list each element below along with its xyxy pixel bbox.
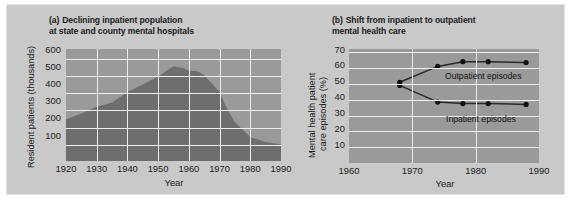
chart-b-title-line2: mental health care (332, 26, 406, 36)
chart-b-gridline-10 (349, 147, 539, 148)
chart-b-point-outpatient-1982 (486, 59, 491, 64)
chart-a-gridline-100 (66, 145, 281, 146)
chart-b-title-line1: Shift from inpatient to outpatient (346, 15, 476, 25)
chart-a-title-line1: Declining inpatient population (62, 15, 182, 25)
chart-a-plot-area (66, 49, 281, 161)
chart-a-gridline-1940 (127, 49, 128, 161)
chart-b-ytick-30: 30 (317, 108, 345, 118)
chart-b-gridline-1970 (412, 49, 413, 163)
chart-b-point-inpatient-1978 (460, 101, 465, 106)
chart-a-tag: (a) (49, 15, 59, 25)
chart-b-y-axis-label-line1: Mental health patient (307, 73, 317, 158)
chart-b-ytick-60: 60 (317, 60, 345, 70)
chart-b-point-inpatient-1982 (486, 101, 491, 106)
chart-b-gridline-1980 (476, 49, 477, 163)
chart-b-ytick-40: 40 (317, 92, 345, 102)
chart-b-xtick-1990: 1990 (522, 166, 556, 176)
chart-b-xtick-1960: 1960 (332, 166, 366, 176)
chart-a-ytick-100: 100 (33, 131, 61, 141)
chart-b-gridline-40 (349, 100, 539, 101)
chart-a-gridline-1960 (189, 49, 190, 161)
chart-b-x-axis-label: Year (410, 178, 480, 189)
chart-a-title: (a)Declining inpatient population at sta… (49, 15, 287, 37)
chart-b-annotation-outpatient: Outpatient episodes (445, 71, 521, 81)
chart-b-ytick-10: 10 (317, 140, 345, 150)
chart-b-gridline-70 (349, 52, 539, 53)
chart-a-xtick-1940: 1940 (110, 164, 144, 174)
chart-b-gridline-50 (349, 84, 539, 85)
figure-panel: (a)Declining inpatient population at sta… (6, 4, 565, 195)
chart-a-gridline-1980 (250, 49, 251, 161)
chart-b-shift-inpatient-to-outpatient: (b)Shift from inpatient to outpatient me… (299, 5, 566, 196)
chart-a-xtick-1970: 1970 (203, 164, 237, 174)
chart-b-gridline-60 (349, 68, 539, 69)
chart-b-point-inpatient-1988 (524, 102, 529, 107)
chart-b-gridline-20 (349, 131, 539, 132)
chart-a-ytick-500: 500 (33, 62, 61, 72)
chart-a-declining-inpatient-population: (a)Declining inpatient population at sta… (7, 5, 299, 196)
chart-a-area-polygon (66, 66, 281, 161)
chart-a-gridline-400 (66, 93, 281, 94)
chart-b-plot-area: Outpatient episodes Inpatient episodes (349, 49, 539, 163)
chart-a-gridline-1970 (220, 49, 221, 161)
chart-a-x-axis-label: Year (139, 177, 209, 188)
chart-b-title: (b)Shift from inpatient to outpatient me… (332, 15, 562, 37)
chart-b-xtick-1980: 1980 (459, 166, 493, 176)
chart-a-gridline-300 (66, 110, 281, 111)
chart-b-ytick-50: 50 (317, 76, 345, 86)
chart-b-tag: (b) (332, 15, 343, 25)
chart-a-ytick-400: 400 (33, 79, 61, 89)
chart-a-ytick-200: 200 (33, 113, 61, 123)
chart-a-title-line2: at state and county mental hospitals (49, 26, 194, 36)
chart-a-ytick-300: 300 (33, 96, 61, 106)
chart-b-ytick-20: 20 (317, 124, 345, 134)
chart-b-point-outpatient-1988 (524, 60, 529, 65)
chart-a-gridline-500 (66, 76, 281, 77)
figure-container: (a)Declining inpatient population at sta… (0, 0, 571, 205)
chart-b-line-series (349, 49, 539, 163)
chart-a-gridline-600 (66, 59, 281, 60)
chart-a-gridline-200 (66, 128, 281, 129)
chart-a-xtick-1920: 1920 (49, 164, 83, 174)
chart-b-annotation-inpatient: Inpatient episodes (446, 114, 516, 124)
chart-a-xtick-1990: 1990 (264, 164, 298, 174)
chart-b-point-outpatient-1978 (460, 59, 465, 64)
chart-a-xtick-1950: 1950 (141, 164, 175, 174)
chart-a-ytick-600: 600 (33, 45, 61, 55)
chart-a-xtick-1930: 1930 (80, 164, 114, 174)
chart-a-gridline-1950 (158, 49, 159, 161)
chart-a-gridline-1930 (97, 49, 98, 161)
chart-b-xtick-1970: 1970 (395, 166, 429, 176)
chart-a-xtick-1980: 1980 (233, 164, 267, 174)
chart-a-xtick-1960: 1960 (172, 164, 206, 174)
chart-b-ytick-70: 70 (317, 45, 345, 55)
